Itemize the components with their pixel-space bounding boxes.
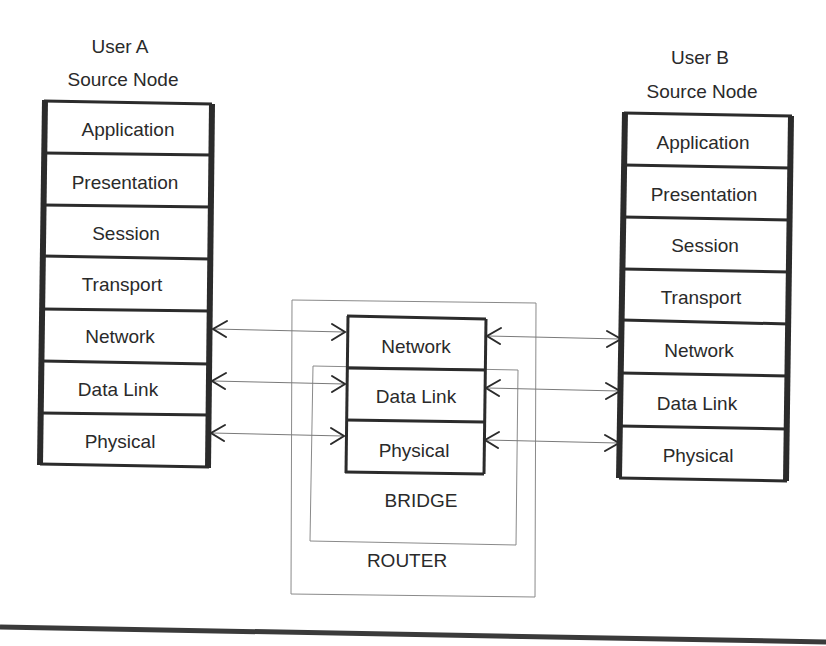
bottom-rule	[0, 627, 826, 642]
osi-diagram: ROUTER BRIDGE User A Source Node Applica…	[0, 0, 826, 646]
user-a-stack: User A Source Node Application Presentat…	[40, 36, 212, 468]
intermediate-stack: Network Data Link Physical	[345, 316, 486, 474]
user-b-stack: User B Source Node Application Presentat…	[619, 47, 792, 481]
user-b-layer-presentation: Presentation	[651, 184, 758, 205]
user-b-layer-transport: Transport	[661, 287, 742, 308]
user-a-subtitle: Source Node	[68, 69, 179, 90]
arrow-a-network	[213, 321, 345, 340]
user-b-layer-application: Application	[657, 132, 750, 153]
user-b-title: User B	[671, 47, 729, 68]
arrow-b-network	[487, 328, 621, 347]
user-a-layer-physical: Physical	[85, 431, 156, 452]
user-b-layer-network: Network	[664, 340, 734, 361]
user-a-title: User A	[91, 36, 148, 57]
user-b-layer-session: Session	[671, 235, 739, 256]
user-b-layer-physical: Physical	[663, 445, 734, 466]
arrow-a-physical	[211, 425, 344, 444]
user-a-layer-transport: Transport	[82, 274, 163, 295]
user-a-layer-data-link: Data Link	[78, 379, 159, 400]
user-b-subtitle: Source Node	[647, 81, 758, 102]
bridge-label: BRIDGE	[385, 490, 458, 511]
arrows-right	[485, 328, 621, 451]
bridge-layer-data-link: Data Link	[376, 386, 457, 407]
user-a-layer-presentation: Presentation	[72, 172, 179, 193]
bridge-layer-physical: Physical	[379, 440, 450, 461]
arrow-a-data-link	[212, 373, 345, 392]
bridge-layer-network: Network	[381, 336, 451, 357]
arrow-b-physical	[485, 432, 619, 451]
router-label: ROUTER	[367, 550, 447, 571]
user-a-layer-session: Session	[92, 223, 160, 244]
arrows-left	[211, 321, 345, 444]
user-a-layer-application: Application	[82, 119, 175, 140]
arrow-b-data-link	[486, 380, 620, 399]
user-b-layer-data-link: Data Link	[657, 393, 738, 414]
user-a-layer-network: Network	[85, 326, 155, 347]
